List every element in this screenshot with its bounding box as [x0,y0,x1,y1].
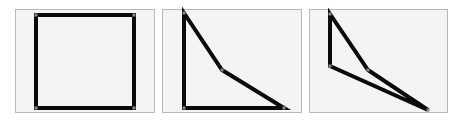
vertex-marker [329,13,332,16]
vertex-marker [427,109,430,112]
vertex-marker [133,14,136,17]
shapes-canvas [0,0,457,120]
shape-deformed-shape [330,14,428,110]
shape-square [36,15,134,108]
vertex-marker [133,107,136,110]
vertex-marker [183,107,186,110]
vertex-marker [221,69,224,72]
vertex-marker [283,107,286,110]
vertex-marker [329,65,332,68]
vertex-marker [183,12,186,15]
shape-quad-triangle [184,13,284,108]
vertex-marker [367,69,370,72]
vertex-marker [35,107,38,110]
vertex-marker [35,14,38,17]
